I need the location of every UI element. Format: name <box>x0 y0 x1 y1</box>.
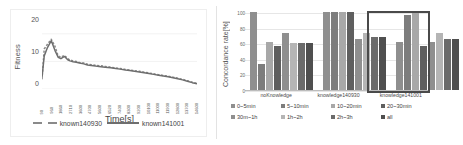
line-chart-x-tick: 4700 <box>88 105 92 114</box>
legend-label-known141001: known141001 <box>142 120 184 127</box>
bar-chart-y-tick: 60 <box>231 42 247 47</box>
legend-item-all: all <box>381 114 431 120</box>
bar-chart-y-axis-title: Concordance rate[%] <box>220 11 231 97</box>
bar-chart-panel: Concordance rate[%] 020406080100 noKnowl… <box>217 0 434 145</box>
legend-swatch-icon <box>231 104 235 108</box>
legend-label: 1h~2h <box>287 114 303 120</box>
line-chart-x-tick: 12800 <box>176 103 180 114</box>
legend-item-2h~3h: 2h~3h <box>331 114 381 120</box>
legend-swatch-icon <box>331 115 335 119</box>
legend-swatch-icon <box>331 104 335 108</box>
line-chart-x-tick: 9200 <box>137 105 141 114</box>
bar <box>250 12 257 90</box>
bar-chart: Concordance rate[%] 020406080100 noKnowl… <box>220 5 432 142</box>
bar <box>428 42 435 90</box>
legend-swatch-icon <box>281 104 285 108</box>
solid-line-icon <box>107 122 139 125</box>
bar-chart-category-knowledge141001: knowledge141001 <box>370 92 432 101</box>
bar <box>323 12 330 90</box>
legend-item-10~20min: 10~20min <box>331 103 381 109</box>
bar <box>290 43 297 90</box>
bar <box>363 33 370 90</box>
legend-swatch-icon <box>231 115 235 119</box>
legend-label: 10~20min <box>337 103 362 109</box>
line-chart-x-tick: 11000 <box>156 103 160 114</box>
line-chart-x-tick: 10100 <box>147 103 151 114</box>
bar <box>436 33 443 90</box>
bar-chart-legend-row-2: 30m~1h1h~2h2h~3hall <box>231 114 431 120</box>
legend-item-5~10min: 5~10min <box>281 103 331 109</box>
dashed-line-icon <box>48 122 57 125</box>
bar-group-knowledge141001 <box>391 12 463 90</box>
bar <box>371 37 378 90</box>
bar-chart-legend: 0~5min5~10min10~20min20~30min 30m~1h1h~2… <box>231 103 431 125</box>
legend-label-known140930: known140930 <box>60 120 102 127</box>
bar <box>282 33 289 90</box>
line-chart-x-tick: 5600 <box>98 105 102 114</box>
bar <box>266 42 273 90</box>
line-chart-x-tick: 3600 <box>79 105 83 114</box>
legend-swatch-icon <box>281 115 285 119</box>
line-chart-y-tick-10: 10 <box>25 48 39 55</box>
bar <box>452 39 459 91</box>
legend-item-30m~1h: 30m~1h <box>231 114 281 120</box>
bar-chart-legend-row-1: 0~5min5~10min10~20min20~30min <box>231 103 431 109</box>
legend-item-0~5min: 0~5min <box>231 103 281 109</box>
bar <box>298 43 305 90</box>
line-chart-x-tick: 1860 <box>59 105 63 114</box>
legend-label: 20~30min <box>387 103 412 109</box>
bar-group-knowledge140930 <box>318 12 391 90</box>
line-chart-x-tick: 6520 <box>108 105 112 114</box>
bar-chart-category-knowledge140930: knowledge140930 <box>307 92 369 101</box>
line-chart-x-tick: 7400 <box>118 105 122 114</box>
bar-group-noKnowledge <box>245 12 318 90</box>
bar-chart-y-tick: 80 <box>231 26 247 31</box>
bar-chart-y-tick: 20 <box>231 73 247 78</box>
legend-label: all <box>387 114 393 120</box>
line-chart-svg <box>42 20 197 89</box>
bar-chart-category-noKnowledge: noKnowledge <box>245 92 307 101</box>
bar-chart-y-tick: 100 <box>231 11 247 16</box>
line-chart-x-tick: 14600 <box>195 103 199 114</box>
legend-item-20~30min: 20~30min <box>381 103 431 109</box>
bar <box>404 15 411 90</box>
legend-label: 2h~3h <box>337 114 353 120</box>
line-chart-x-tick: 13700 <box>185 103 189 114</box>
line-chart-y-axis-title: Fitness <box>13 44 25 70</box>
legend-label: 0~5min <box>237 103 256 109</box>
bar-chart-plot-area: 020406080100 <box>231 12 429 91</box>
line-chart-x-tick: 960 <box>50 107 54 114</box>
line-chart-y-tick-0: 0 <box>25 80 39 87</box>
line-chart-x-tick-labels: 9096018602710360047005600652074008300920… <box>42 90 197 114</box>
bar <box>379 37 386 90</box>
line-chart-x-tick: 11900 <box>166 103 170 114</box>
legend-swatch-icon <box>381 104 385 108</box>
line-chart-legend: known140930 known141001 <box>10 116 207 130</box>
bar-chart-bars <box>245 12 429 90</box>
bar <box>420 46 427 91</box>
bar <box>444 39 451 91</box>
bar <box>355 39 362 91</box>
legend-label: 30m~1h <box>237 114 257 120</box>
bar-chart-x-axis-line <box>245 90 429 91</box>
bar <box>331 12 338 90</box>
bar-chart-category-labels: noKnowledgeknowledge140930knowledge14100… <box>245 92 432 101</box>
bar <box>347 12 354 90</box>
line-chart-x-tick: 2710 <box>69 105 73 114</box>
bar <box>339 12 346 90</box>
line-chart-plot-area <box>42 20 197 89</box>
line-chart-y-tick-20: 20 <box>25 16 39 23</box>
bar-chart-y-tick: 40 <box>231 57 247 62</box>
legend-label: 5~10min <box>287 103 309 109</box>
dashed-line-icon <box>33 122 42 125</box>
legend-item-known141001: known141001 <box>107 120 184 127</box>
bar <box>274 46 281 90</box>
legend-item-1h~2h: 1h~2h <box>281 114 331 120</box>
line-chart-x-tick: 8300 <box>127 105 131 114</box>
legend-item-known140930: known140930 <box>33 120 102 127</box>
bar <box>412 12 419 90</box>
bar <box>306 43 313 90</box>
bar <box>396 42 403 90</box>
legend-swatch-icon <box>381 115 385 119</box>
